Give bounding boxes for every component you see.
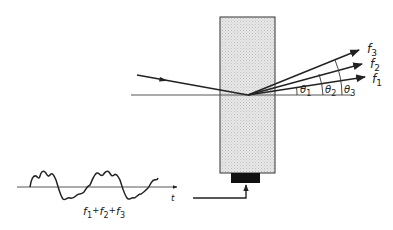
drive-signal-line bbox=[193, 185, 246, 198]
label-f3: f3 bbox=[367, 42, 377, 58]
transducer bbox=[231, 173, 260, 183]
angle-arc-theta1 bbox=[297, 88, 298, 96]
input-beam-arrowhead bbox=[159, 77, 168, 82]
signal-sum-label: f1+f2+f3 bbox=[83, 205, 125, 220]
label-f1: f1 bbox=[372, 72, 382, 88]
acousto-optic-diagram: f3 f2 f1 θ1 θ2 θ3 t f1+f2+f3 bbox=[0, 0, 393, 230]
time-axis-label: t bbox=[171, 193, 175, 203]
composite-signal-waveform bbox=[30, 171, 158, 199]
label-theta3: θ3 bbox=[344, 84, 355, 98]
label-theta2: θ2 bbox=[325, 84, 336, 98]
label-f2: f2 bbox=[370, 57, 380, 73]
